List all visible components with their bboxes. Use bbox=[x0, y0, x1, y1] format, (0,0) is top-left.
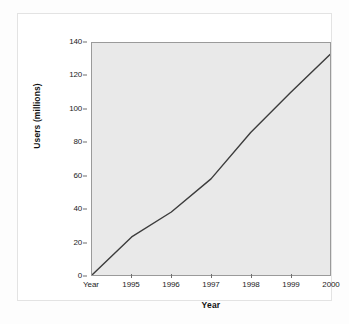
y-tick-mark bbox=[83, 209, 87, 210]
x-tick-mark bbox=[251, 274, 252, 278]
x-tick-mark bbox=[211, 274, 212, 278]
x-tick-label: 1996 bbox=[162, 280, 179, 289]
x-tick-label: Year bbox=[83, 280, 99, 289]
x-tick-label: 1998 bbox=[242, 280, 259, 289]
y-tick-mark bbox=[83, 108, 87, 109]
y-tick-label: 40 bbox=[74, 205, 83, 213]
y-tick-label: 20 bbox=[74, 239, 83, 247]
y-tick-mark bbox=[83, 142, 87, 143]
x-tick-label: 1995 bbox=[122, 280, 139, 289]
y-tick-label: 100 bbox=[69, 105, 82, 113]
y-tick-label: 80 bbox=[74, 138, 83, 146]
y-tick-label: 140 bbox=[69, 38, 82, 46]
x-tick-label: 2000 bbox=[322, 280, 339, 289]
y-axis-ticks: 020406080100120140 bbox=[58, 42, 87, 276]
y-tick-label: 0 bbox=[78, 272, 82, 280]
chart-figure: Users (millions) 020406080100120140 Year… bbox=[0, 0, 349, 324]
x-tick-label: 1997 bbox=[202, 280, 219, 289]
data-line-users bbox=[92, 55, 330, 275]
x-axis-title: Year bbox=[91, 300, 331, 310]
y-tick-mark bbox=[83, 242, 87, 243]
y-tick-mark bbox=[83, 75, 87, 76]
y-tick-mark bbox=[83, 276, 87, 277]
x-tick-label: 1999 bbox=[282, 280, 299, 289]
y-tick-label: 60 bbox=[74, 172, 83, 180]
x-axis-ticks: Year199519961997199819992000 bbox=[91, 278, 331, 292]
y-axis-title: Users (millions) bbox=[32, 56, 42, 176]
y-tick-label: 120 bbox=[69, 71, 82, 79]
y-tick-mark bbox=[83, 42, 87, 43]
x-tick-mark bbox=[131, 274, 132, 278]
y-tick-mark bbox=[83, 175, 87, 176]
plot-area bbox=[91, 42, 331, 276]
x-tick-mark bbox=[171, 274, 172, 278]
chart-card: Users (millions) 020406080100120140 Year… bbox=[17, 13, 332, 301]
x-tick-mark bbox=[291, 274, 292, 278]
line-series-svg bbox=[92, 43, 330, 275]
